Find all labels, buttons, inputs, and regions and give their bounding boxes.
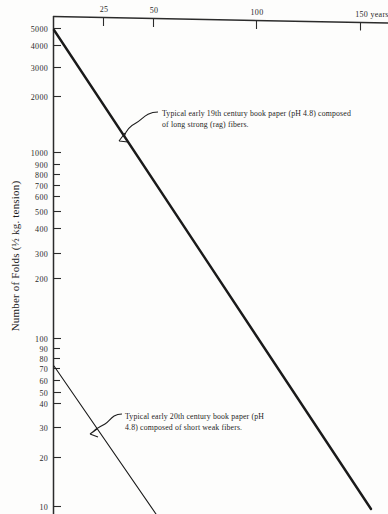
- y-tick-label-90: 90: [0, 345, 48, 354]
- x-tick-label-50: 50: [150, 6, 159, 15]
- y-tick-label-600: 600: [0, 193, 48, 202]
- chart-figure: Number of Folds (½ kg. tension) 5000 400…: [0, 0, 388, 514]
- y-tick-label-200: 200: [0, 275, 48, 284]
- y-tick-label-700: 700: [0, 182, 48, 191]
- y-tick-label-400: 400: [0, 225, 48, 234]
- y-tick-label-20: 20: [0, 454, 48, 463]
- y-tick-label-50: 50: [0, 389, 48, 398]
- x-tick-label-150: 150 years: [355, 10, 388, 19]
- x-tick-label-25: 25: [100, 5, 109, 14]
- y-tick-label-4000: 4000: [0, 42, 48, 51]
- y-tick-label-40: 40: [0, 400, 48, 409]
- y-tick-label-100: 100: [0, 335, 48, 344]
- plot-canvas: [0, 0, 388, 514]
- y-tick-label-1000: 1000: [0, 149, 48, 158]
- y-axis-ticks: [54, 29, 61, 507]
- y-tick-label-80: 80: [0, 355, 48, 364]
- annotation-19th-century: Typical early 19th century book paper (p…: [162, 108, 352, 130]
- x-tick-label-100: 100: [251, 8, 264, 17]
- series-line-19th-century: [54, 30, 371, 509]
- annotation-20th-century: Typical early 20th century book paper (p…: [125, 411, 275, 433]
- y-tick-label-500: 500: [0, 208, 48, 217]
- y-tick-label-70: 70: [0, 365, 48, 374]
- y-tick-label-3000: 3000: [0, 64, 48, 73]
- y-tick-label-10: 10: [0, 503, 48, 512]
- y-tick-label-300: 300: [0, 250, 48, 259]
- y-tick-label-30: 30: [0, 424, 48, 433]
- y-tick-label-2000: 2000: [0, 93, 48, 102]
- y-tick-label-60: 60: [0, 377, 48, 386]
- series-line-20th-century: [54, 366, 156, 514]
- y-tick-label-5000: 5000: [0, 25, 48, 34]
- y-tick-label-900: 900: [0, 161, 48, 170]
- y-tick-label-800: 800: [0, 171, 48, 180]
